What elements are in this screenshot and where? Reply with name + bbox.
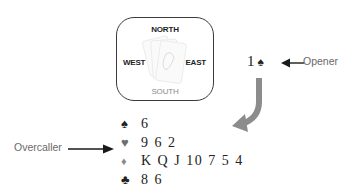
spade-icon: ♠ (258, 55, 264, 69)
diamond-cards: K Q J 10 7 5 4 (141, 153, 244, 168)
opener-arrow-icon (281, 58, 305, 68)
hand-row-clubs: ♣8 6 (121, 171, 244, 190)
spade-cards: 6 (141, 116, 150, 131)
spade-icon: ♠ (121, 115, 141, 134)
hand-row-diamonds: ♦K Q J 10 7 5 4 (121, 152, 244, 171)
diamond-icon: ♦ (121, 152, 141, 171)
overcaller-hand: ♠6 ♥9 6 2 ♦K Q J 10 7 5 4 ♣8 6 (121, 115, 244, 189)
hand-row-spades: ♠6 (121, 115, 244, 134)
hand-row-hearts: ♥9 6 2 (121, 134, 244, 153)
opening-bid: 1♠ (247, 53, 264, 70)
compass-west: WEST (123, 58, 145, 67)
heart-cards: 9 6 2 (141, 135, 177, 150)
overcaller-arrow-icon (68, 144, 114, 154)
compass-east: EAST (185, 58, 206, 67)
opener-label: Opener (303, 55, 338, 67)
bridge-table-compass: NORTH WEST EAST SOUTH (116, 17, 214, 101)
club-cards: 8 6 (141, 172, 163, 187)
overcaller-label: Overcaller (14, 141, 62, 153)
heart-icon: ♥ (121, 134, 141, 153)
bid-level: 1 (247, 53, 255, 69)
compass-south: SOUTH (117, 87, 213, 96)
compass-north: NORTH (117, 25, 213, 34)
club-icon: ♣ (121, 171, 141, 190)
